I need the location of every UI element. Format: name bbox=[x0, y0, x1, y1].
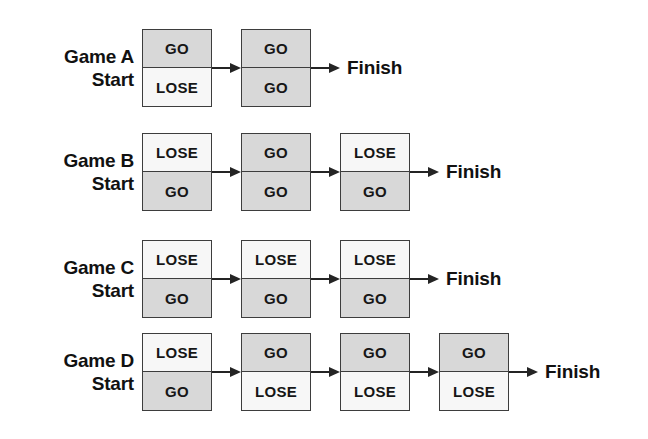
step-cell-top: GO bbox=[143, 30, 211, 68]
arrow-head bbox=[230, 367, 241, 377]
step-cell-top: LOSE bbox=[143, 241, 211, 279]
arrow-shaft bbox=[410, 371, 428, 373]
step-cell-top: GO bbox=[440, 334, 508, 372]
arrow-head bbox=[329, 367, 340, 377]
game-step-track: LOSEGOGOLOSEGOLOSEGOLOSE bbox=[142, 333, 538, 411]
arrow-head bbox=[527, 367, 538, 377]
step-cell-bottom: LOSE bbox=[341, 372, 409, 410]
step-box[interactable]: LOSEGO bbox=[241, 240, 311, 318]
step-box[interactable]: LOSEGO bbox=[142, 133, 212, 211]
arrow-head bbox=[230, 274, 241, 284]
step-cell-bottom: GO bbox=[242, 279, 310, 317]
step-box[interactable]: LOSEGO bbox=[340, 133, 410, 211]
game-start-text: Start bbox=[92, 68, 134, 91]
step-cell-top: LOSE bbox=[341, 241, 409, 279]
step-cell-bottom: GO bbox=[143, 372, 211, 410]
finish-label: Finish bbox=[446, 268, 501, 290]
arrow-head bbox=[428, 167, 439, 177]
arrow-shaft bbox=[212, 371, 230, 373]
arrow-head bbox=[329, 167, 340, 177]
arrow-shaft bbox=[410, 278, 428, 280]
step-cell-bottom: GO bbox=[341, 279, 409, 317]
step-cell-bottom: LOSE bbox=[242, 372, 310, 410]
game-name-text: Game D bbox=[63, 349, 134, 372]
game-row-game-c: Game CStartLOSEGOLOSEGOLOSEGOFinish bbox=[0, 240, 648, 318]
step-cell-bottom: GO bbox=[341, 172, 409, 210]
finish-label: Finish bbox=[347, 57, 402, 79]
step-box[interactable]: LOSEGO bbox=[142, 333, 212, 411]
finish-label: Finish bbox=[545, 361, 600, 383]
step-cell-bottom: LOSE bbox=[143, 68, 211, 106]
arrow-head bbox=[428, 274, 439, 284]
finish-label: Finish bbox=[446, 161, 501, 183]
step-box[interactable]: GOLOSE bbox=[340, 333, 410, 411]
arrow-shaft bbox=[311, 67, 329, 69]
arrow-shaft bbox=[311, 278, 329, 280]
step-cell-top: LOSE bbox=[341, 134, 409, 172]
step-cell-bottom: GO bbox=[242, 68, 310, 106]
step-box[interactable]: LOSEGO bbox=[142, 240, 212, 318]
step-cell-bottom: GO bbox=[143, 279, 211, 317]
game-label: Game CStart bbox=[10, 240, 134, 318]
game-start-text: Start bbox=[92, 172, 134, 195]
step-cell-top: GO bbox=[242, 134, 310, 172]
game-label: Game BStart bbox=[10, 133, 134, 211]
step-box[interactable]: GOGO bbox=[241, 133, 311, 211]
game-start-text: Start bbox=[92, 372, 134, 395]
arrow-shaft bbox=[509, 371, 527, 373]
step-cell-top: LOSE bbox=[242, 241, 310, 279]
arrow-head bbox=[329, 274, 340, 284]
step-cell-top: LOSE bbox=[143, 334, 211, 372]
arrow-shaft bbox=[311, 371, 329, 373]
arrow-head bbox=[428, 367, 439, 377]
game-label: Game DStart bbox=[10, 333, 134, 411]
step-box[interactable]: GOGO bbox=[241, 29, 311, 107]
step-box[interactable]: GOLOSE bbox=[142, 29, 212, 107]
step-cell-top: GO bbox=[341, 334, 409, 372]
arrow-shaft bbox=[311, 171, 329, 173]
game-flow-diagram: Game AStartGOLOSEGOGOFinishGame BStartLO… bbox=[0, 0, 648, 439]
game-name-text: Game A bbox=[64, 45, 134, 68]
arrow-shaft bbox=[410, 171, 428, 173]
step-box[interactable]: GOLOSE bbox=[241, 333, 311, 411]
game-step-track: GOLOSEGOGO bbox=[142, 29, 340, 107]
arrow-head bbox=[329, 63, 340, 73]
arrow-shaft bbox=[212, 67, 230, 69]
step-box[interactable]: GOLOSE bbox=[439, 333, 509, 411]
game-row-game-a: Game AStartGOLOSEGOGOFinish bbox=[0, 29, 648, 107]
step-cell-bottom: GO bbox=[143, 172, 211, 210]
step-cell-top: LOSE bbox=[143, 134, 211, 172]
arrow-shaft bbox=[212, 278, 230, 280]
game-name-text: Game C bbox=[63, 256, 134, 279]
game-step-track: LOSEGOGOGOLOSEGO bbox=[142, 133, 439, 211]
game-row-game-d: Game DStartLOSEGOGOLOSEGOLOSEGOLOSEFinis… bbox=[0, 333, 648, 411]
arrow-head bbox=[230, 63, 241, 73]
game-name-text: Game B bbox=[63, 149, 134, 172]
step-cell-top: GO bbox=[242, 30, 310, 68]
arrow-shaft bbox=[212, 171, 230, 173]
step-cell-bottom: LOSE bbox=[440, 372, 508, 410]
arrow-head bbox=[230, 167, 241, 177]
step-box[interactable]: LOSEGO bbox=[340, 240, 410, 318]
game-start-text: Start bbox=[92, 279, 134, 302]
game-row-game-b: Game BStartLOSEGOGOGOLOSEGOFinish bbox=[0, 133, 648, 211]
step-cell-bottom: GO bbox=[242, 172, 310, 210]
game-label: Game AStart bbox=[10, 29, 134, 107]
step-cell-top: GO bbox=[242, 334, 310, 372]
game-step-track: LOSEGOLOSEGOLOSEGO bbox=[142, 240, 439, 318]
